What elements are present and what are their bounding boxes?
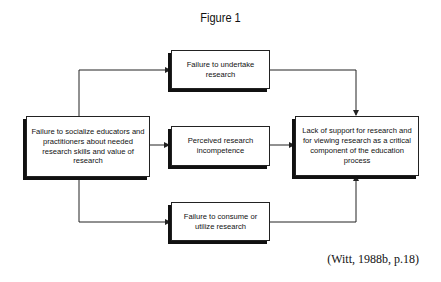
node-outcome: Lack of support for research and for vie… [295, 116, 419, 176]
node-source-label: Failure to socialize educators and pract… [30, 127, 146, 166]
node-source: Failure to socialize educators and pract… [26, 116, 150, 177]
node-middle: Perceived research incompetence [171, 126, 270, 166]
figure-citation: (Witt, 1988b, p.18) [327, 252, 419, 267]
node-middle-label: Perceived research incompetence [175, 136, 266, 156]
node-bottom-label: Failure to consume or utilize research [175, 212, 266, 232]
edge-bottom-outcome [270, 176, 356, 222]
edge-top-outcome [270, 70, 356, 115]
node-bottom: Failure to consume or utilize research [171, 202, 270, 241]
node-top-label: Failure to undertake research [175, 60, 266, 80]
node-top: Failure to undertake research [171, 50, 270, 89]
edge-source-bottom [79, 177, 170, 222]
node-outcome-label: Lack of support for research and for vie… [299, 126, 415, 165]
edge-source-top [79, 70, 170, 116]
